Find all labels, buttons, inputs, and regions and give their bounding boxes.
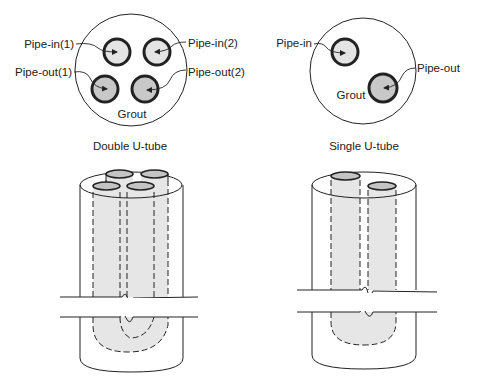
double-u-tube-cross-section: Pipe-in(1) Pipe-in(2) Pipe-out(1) Pipe-o… [15,14,245,126]
pipe-out-circle [369,74,397,102]
caption-double-u-tube: Double U-tube [93,140,167,152]
borehole-heat-exchanger-diagram: Pipe-in(1) Pipe-in(2) Pipe-out(1) Pipe-o… [0,0,484,377]
single-u-tube-borehole-3d [297,172,437,369]
label-grout: Grout [118,108,148,120]
label-grout: Grout [337,89,367,101]
label-pipe-in: Pipe-in [276,37,312,49]
label-pipe-out-1: Pipe-out(1) [15,66,72,78]
pipe-out-2-circle [132,76,158,102]
double-u-tube-borehole-3d [60,170,198,372]
caption-single-u-tube: Single U-tube [329,140,399,152]
label-pipe-in-1: Pipe-in(1) [24,38,74,50]
label-pipe-out-2: Pipe-out(2) [188,66,245,78]
label-pipe-in-2: Pipe-in(2) [188,37,238,49]
label-pipe-out: Pipe-out [417,62,461,74]
single-u-tube-cross-section: Pipe-in Pipe-out Grout [276,18,460,124]
borehole-outline [310,18,416,124]
